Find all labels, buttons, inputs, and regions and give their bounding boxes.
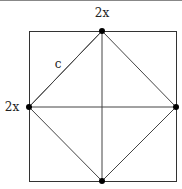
geometry-diagram: 2x 2x c (0, 0, 182, 189)
inner-square (29, 31, 176, 181)
right-midpoint-dot (173, 104, 179, 110)
left-side-label: 2x (5, 100, 20, 114)
inner-side-label: c (55, 57, 62, 71)
top-midpoint-dot (99, 28, 105, 34)
top-side-label: 2x (95, 6, 110, 20)
left-midpoint-dot (26, 104, 32, 110)
bottom-midpoint-dot (99, 178, 105, 184)
